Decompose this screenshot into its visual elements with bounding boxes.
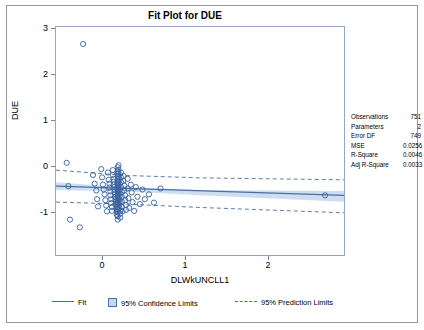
x-tickmark-1 [185,256,186,260]
plot-area [55,26,345,256]
stat-value: 751 [403,112,421,122]
x-tickmark-0 [102,256,103,260]
solid-line-icon [52,301,74,302]
stat-label: R-Square [351,150,378,160]
y-tick-neg1: -1 [26,207,48,217]
x-tick-0: 0 [92,260,112,270]
x-axis-label: DLWkUNCLL1 [55,275,345,285]
band-swatch-icon [108,298,117,307]
y-tick-0: 0 [26,161,48,171]
x-tick-2: 2 [258,260,278,270]
x-tick-1: 1 [175,260,195,270]
y-tick-3: 3 [26,23,48,33]
stat-label: MSE [351,141,365,151]
stat-label: Observations [351,112,388,122]
legend-label-fit: Fit [78,298,86,307]
stat-label: Error DF [351,131,375,141]
stat-value: 749 [403,131,421,141]
y-tick-1: 1 [26,115,48,125]
legend-item-fit: Fit [52,298,86,307]
stat-label: Adj R-Square [351,160,389,170]
stat-value: 0.0256 [403,141,421,151]
stat-label: Parameters [351,122,384,132]
y-tick-2: 2 [26,69,48,79]
x-tickmark-2 [268,256,269,260]
legend-label-prediction: 95% Prediction Limits [261,298,333,307]
fit-plot-screenshot: Fit Plot for DUE DUE DLWkUNCLL1 3 2 1 0 … [0,0,424,330]
chart-canvas [56,27,344,255]
legend-label-confidence: 95% Confidence Limits [121,299,198,308]
y-axis-label: DUE [10,101,20,120]
page-title: Fit Plot for DUE [20,10,350,21]
stat-value: 0.0046 [403,150,421,160]
legend-item-prediction: 95% Prediction Limits [235,298,333,307]
dashed-line-icon [235,301,257,302]
stat-value: 2 [403,122,421,132]
legend-item-confidence: 95% Confidence Limits [108,298,198,308]
stat-value: 0.0033 [403,160,421,170]
